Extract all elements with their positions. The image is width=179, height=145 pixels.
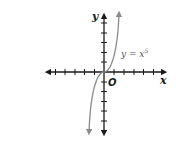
curve-equation-exponent: 5 <box>144 47 148 54</box>
origin-label: O <box>108 77 117 88</box>
curve-equation-base: y = x <box>120 49 144 59</box>
curve-equation-label: y = x5 <box>120 47 148 59</box>
y-axis-label: y <box>91 10 100 23</box>
x-axis-label: x <box>159 74 167 87</box>
coordinate-graph: y x O y = x5 <box>0 0 179 145</box>
